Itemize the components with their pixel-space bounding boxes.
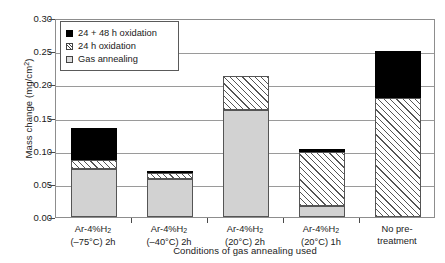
bar-5	[375, 18, 421, 217]
chart-legend: 24 + 48 h oxidation24 h oxidationGas ann…	[60, 21, 179, 71]
y-tick-label: 0.30	[8, 13, 52, 24]
bar-segment-h24	[71, 160, 117, 169]
bar-segment-gas	[299, 206, 345, 217]
y-axis-title-tail: )	[23, 59, 34, 62]
legend-label: 24 + 48 h oxidation	[78, 28, 157, 38]
subscript: 2	[335, 227, 339, 234]
x-tick-mark	[359, 218, 360, 223]
bar-segment-h2448	[299, 149, 345, 152]
y-tick-label: 0.00	[8, 212, 52, 223]
bar-segment-h24	[375, 98, 421, 217]
bar-4	[299, 18, 345, 217]
x-tick-mark	[207, 218, 208, 223]
y-tick-mark	[49, 218, 55, 219]
subscript: 2	[259, 227, 263, 234]
legend-swatch-hatched-square	[66, 43, 73, 50]
y-tick-label: 0.20	[8, 79, 52, 90]
legend-label: Gas annealing	[78, 54, 138, 64]
x-tick-label-5: No pre-treatment	[349, 224, 445, 247]
y-tick-label: 0.10	[8, 146, 52, 157]
legend-swatch-black-square	[66, 30, 73, 37]
bar-segment-h24	[147, 173, 193, 178]
legend-item-3: Gas annealing	[66, 53, 172, 65]
y-axis-title-superscript: 2	[23, 62, 30, 66]
bar-segment-h24	[299, 152, 345, 206]
y-tick-label: 0.15	[8, 113, 52, 124]
legend-swatch-gray-square	[66, 56, 73, 63]
bar-segment-h2448	[147, 171, 193, 173]
x-tick-label-line1: No pre-	[349, 224, 445, 236]
bar-segment-gas	[223, 110, 269, 217]
mass-change-bar-chart: Mass change (mg/cm2) 0.000.050.100.150.2…	[0, 0, 445, 263]
legend-item-1: 24 + 48 h oxidation	[66, 27, 172, 39]
bar-segment-h2448	[71, 128, 117, 160]
x-tick-mark	[283, 218, 284, 223]
y-tick-label: 0.25	[8, 46, 52, 57]
bar-segment-gas	[71, 169, 117, 217]
bar-segment-gas	[147, 179, 193, 217]
legend-item-2: 24 h oxidation	[66, 40, 172, 52]
y-tick-label: 0.05	[8, 179, 52, 190]
x-axis-title: Conditions of gas annealing used	[55, 245, 435, 256]
legend-label: 24 h oxidation	[78, 41, 136, 51]
bar-segment-h2448	[375, 51, 421, 97]
x-tick-mark	[131, 218, 132, 223]
bar-3	[223, 18, 269, 217]
subscript: 2	[183, 227, 187, 234]
subscript: 2	[107, 227, 111, 234]
bar-segment-h24	[223, 76, 269, 109]
